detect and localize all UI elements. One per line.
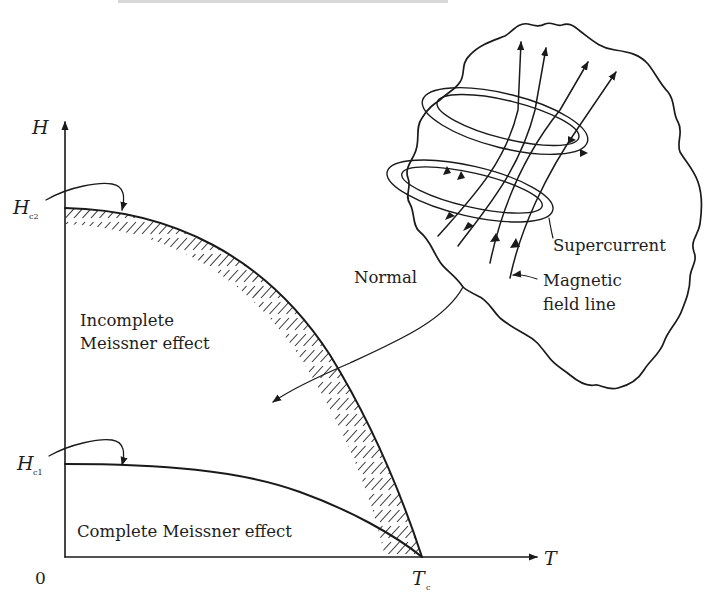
superconductor-phase-diagram: H T 0 T c H c2 H c1 Incomplete Meissner …	[0, 0, 717, 594]
y-axis-label: H	[31, 116, 49, 138]
hc1-pointer-arrow	[49, 440, 124, 465]
supercurrent-pointer	[549, 218, 553, 238]
tc-label: T	[412, 567, 426, 589]
page-header-remnant	[118, 0, 448, 3]
inset-cloud-outline	[407, 23, 702, 389]
x-axis-label: T	[544, 547, 558, 569]
labels: H T 0 T c H c2 H c1 Incomplete Meissner …	[12, 116, 666, 592]
hc2-pointer-arrow	[46, 184, 124, 210]
superconductor-inset	[382, 23, 702, 389]
incomplete-meissner-label-line1: Incomplete	[80, 311, 174, 330]
supercurrent-label: Supercurrent	[553, 236, 666, 255]
complete-meissner-label: Complete Meissner effect	[77, 522, 292, 541]
hc2-curve	[65, 208, 422, 557]
magnetic-field-line-label-line2: field line	[543, 295, 616, 314]
field-line-pointer	[513, 275, 537, 279]
incomplete-meissner-label-line2: Meissner effect	[80, 334, 210, 353]
hc1-subscript: c1	[33, 468, 43, 477]
tc-subscript: c	[426, 583, 431, 592]
magnetic-field-line-label-line1: Magnetic	[543, 271, 622, 290]
hc2-label: H	[12, 196, 30, 218]
hc1-label: H	[16, 452, 34, 474]
supercurrent-loop-upper	[416, 74, 594, 168]
origin-label: 0	[35, 568, 46, 588]
hc2-subscript: c2	[29, 212, 39, 221]
normal-pointer-arrow	[273, 287, 463, 402]
field-line-3	[490, 62, 588, 263]
normal-label: Normal	[354, 268, 417, 287]
field-line-1	[438, 42, 521, 236]
hc1-curve	[65, 464, 422, 557]
